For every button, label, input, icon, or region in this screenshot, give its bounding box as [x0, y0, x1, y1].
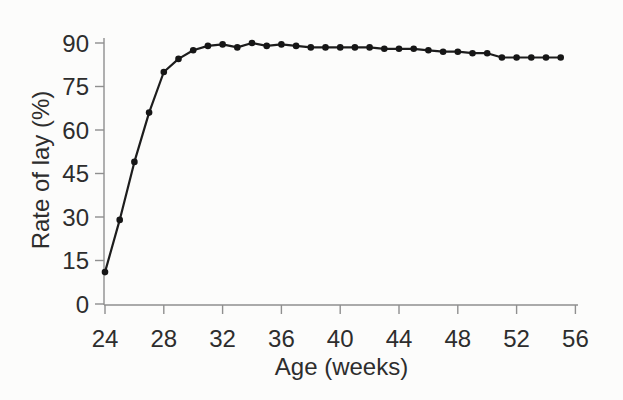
- data-point: [396, 46, 403, 53]
- series-line: [105, 43, 561, 272]
- y-tick-label: 60: [62, 117, 89, 144]
- x-tick-label: 56: [562, 325, 589, 352]
- x-tick-label: 52: [503, 325, 530, 352]
- data-point: [205, 43, 212, 50]
- data-point: [455, 48, 462, 55]
- y-tick-label: 75: [62, 73, 89, 100]
- data-point: [190, 47, 197, 54]
- data-point: [484, 50, 491, 57]
- x-axis-title: Age (weeks): [105, 353, 578, 381]
- line-chart-canvas: 0153045607590242832364044485256: [0, 0, 623, 400]
- x-tick-label: 32: [209, 325, 236, 352]
- data-point: [381, 46, 388, 53]
- y-tick-label: 0: [76, 291, 89, 318]
- data-point: [263, 43, 270, 50]
- y-tick-label: 45: [62, 160, 89, 187]
- data-point: [234, 44, 241, 51]
- x-tick-label: 40: [327, 325, 354, 352]
- data-point: [278, 41, 285, 48]
- data-point: [175, 56, 182, 63]
- data-point: [499, 54, 506, 61]
- data-point: [308, 44, 315, 51]
- y-tick-label: 15: [62, 247, 89, 274]
- data-point: [219, 41, 226, 48]
- data-point: [543, 54, 550, 61]
- data-point: [293, 43, 300, 50]
- data-point: [513, 54, 520, 61]
- data-point: [146, 109, 153, 116]
- data-point: [410, 46, 417, 53]
- data-point: [528, 54, 535, 61]
- y-axis-title: Rate of lay (%): [27, 20, 55, 320]
- chart-figure: 0153045607590242832364044485256 Age (wee…: [0, 0, 623, 400]
- data-point: [131, 159, 138, 166]
- data-point: [557, 54, 564, 61]
- x-tick-label: 24: [92, 325, 119, 352]
- data-point: [249, 40, 256, 47]
- x-tick-label: 28: [150, 325, 177, 352]
- y-tick-label: 30: [62, 204, 89, 231]
- x-tick-label: 44: [386, 325, 413, 352]
- data-point: [469, 50, 476, 57]
- data-point: [425, 47, 432, 54]
- x-tick-label: 36: [268, 325, 295, 352]
- data-point: [102, 269, 109, 276]
- data-point: [352, 44, 359, 51]
- data-point: [322, 44, 329, 51]
- data-point: [337, 44, 344, 51]
- data-point: [440, 48, 447, 55]
- y-tick-label: 90: [62, 30, 89, 57]
- x-tick-label: 48: [444, 325, 471, 352]
- data-point: [116, 217, 123, 224]
- data-point: [366, 44, 373, 51]
- data-point: [161, 69, 168, 76]
